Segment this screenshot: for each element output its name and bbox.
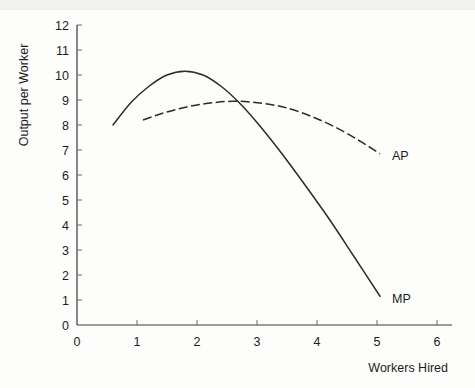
y-tick-label: 12 [55,19,69,33]
y-tick-label: 5 [62,194,69,208]
y-axis-ticks [77,25,82,300]
marginal-product-label: MP [392,292,411,306]
y-tick-label: 10 [55,69,69,83]
y-tick-label: 6 [62,169,69,183]
y-tick-label: 8 [62,119,69,133]
x-tick-label: 4 [314,335,321,349]
y-tick-label: 11 [56,44,69,58]
x-axis-ticks [137,320,437,325]
y-axis-title: Output per Worker [17,44,31,147]
y-tick-label: 7 [62,144,69,158]
x-tick-label: 3 [254,335,261,349]
x-tick-labels: 0 1 2 3 4 5 6 [74,335,441,349]
x-tick-label: 2 [194,335,201,349]
y-tick-label: 3 [62,244,69,258]
y-tick-label: 2 [62,269,69,283]
x-tick-label: 5 [374,335,381,349]
x-tick-label: 6 [434,335,441,349]
x-tick-label: 0 [74,335,81,349]
x-axis-title: Workers Hired [368,361,448,375]
chart-canvas: 12 11 10 9 8 7 6 5 4 3 2 1 0 0 1 2 3 4 5… [0,0,475,388]
chart-figure: 12 11 10 9 8 7 6 5 4 3 2 1 0 0 1 2 3 4 5… [0,0,475,388]
average-product-label: AP [392,149,409,163]
y-tick-labels: 12 11 10 9 8 7 6 5 4 3 2 1 0 [55,19,69,333]
x-tick-label: 1 [134,335,141,349]
y-tick-label: 9 [62,94,69,108]
marginal-product-curve [113,71,380,296]
y-tick-label: 0 [62,319,69,333]
y-tick-label: 4 [62,219,69,233]
y-tick-label: 1 [62,294,69,308]
